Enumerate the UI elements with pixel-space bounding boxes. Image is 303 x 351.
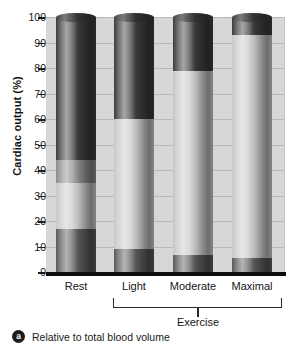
y-axis-tick-mark bbox=[38, 43, 45, 45]
y-axis-tick-mark bbox=[38, 17, 45, 19]
bar-segment bbox=[114, 17, 154, 119]
bar-segment bbox=[232, 35, 272, 258]
bar-segment bbox=[56, 17, 96, 160]
bar-maximal bbox=[232, 17, 272, 272]
bar-segment bbox=[114, 249, 154, 272]
footnote-badge-icon: a bbox=[12, 330, 25, 343]
bar-light bbox=[114, 17, 154, 272]
bar-segment bbox=[173, 71, 213, 256]
bar-segment bbox=[173, 17, 213, 71]
y-axis-tick-mark bbox=[38, 68, 45, 70]
bar-segment bbox=[56, 183, 96, 229]
footnote-text: Relative to total blood volume bbox=[32, 331, 170, 343]
bar-segment bbox=[56, 160, 96, 183]
x-axis-label-maximal: Maximal bbox=[207, 280, 297, 292]
y-axis-tick-mark bbox=[38, 119, 45, 121]
y-axis-tick-mark bbox=[38, 221, 45, 223]
bar-segment bbox=[56, 229, 96, 272]
y-axis-tick-mark bbox=[38, 145, 45, 147]
bar-moderate bbox=[173, 17, 213, 272]
exercise-bracket-label: Exercise bbox=[152, 316, 244, 328]
y-axis-tick-mark bbox=[38, 272, 45, 274]
plot-area bbox=[46, 17, 285, 272]
y-axis-tick-mark bbox=[38, 94, 45, 96]
bar-rest bbox=[56, 17, 96, 272]
plot-right-edge bbox=[284, 17, 285, 272]
bar-segment bbox=[114, 119, 154, 249]
cardiac-output-figure: Cardiac output (%) 010203040506070809010… bbox=[0, 0, 303, 351]
footnote: a Relative to total blood volume bbox=[12, 330, 170, 343]
exercise-bracket bbox=[113, 298, 282, 308]
bar-segment bbox=[232, 17, 272, 35]
y-axis-tick-mark bbox=[38, 170, 45, 172]
x-axis-baseline bbox=[46, 272, 286, 276]
bar-segment bbox=[232, 258, 272, 272]
bar-segment bbox=[173, 255, 213, 272]
y-axis-tick-mark bbox=[38, 196, 45, 198]
y-axis-tick-mark bbox=[38, 247, 45, 249]
